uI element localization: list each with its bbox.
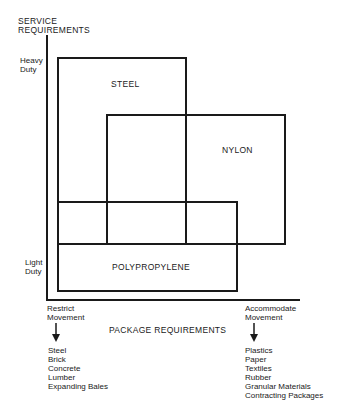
restrict-line2: Movement [47, 313, 84, 322]
polypropylene-region [57, 201, 238, 292]
down-arrow-icon-right [250, 323, 260, 343]
list-item: Lumber [48, 373, 108, 382]
list-item: Concrete [48, 364, 108, 373]
accommodate-line2: Movement [245, 313, 296, 322]
nylon-label: NYLON [222, 146, 253, 155]
restrict-line1: Restrict [47, 304, 84, 313]
list-item: Granular Materials [245, 382, 323, 391]
heavy-duty-label: Heavy Duty [20, 56, 43, 74]
y-axis-line [46, 35, 48, 301]
heavy-duty-line2: Duty [20, 65, 43, 74]
steel-label: STEEL [111, 80, 139, 89]
accommodate-line1: Accommodate [245, 304, 296, 313]
light-duty-line1: Light [25, 258, 42, 267]
light-duty-line2: Duty [25, 267, 42, 276]
restrict-materials-list: Steel Brick Concrete Lumber Expanding Ba… [48, 346, 108, 391]
x-axis-title: PACKAGE REQUIREMENTS [109, 326, 226, 335]
list-item: Brick [48, 355, 108, 364]
polypropylene-label: POLYPROPYLENE [112, 263, 190, 272]
light-duty-label: Light Duty [25, 258, 42, 276]
y-axis-title: SERVICE REQUIREMENTS [18, 17, 90, 35]
list-item: Paper [245, 355, 323, 364]
list-item: Textiles [245, 364, 323, 373]
accommodate-materials-list: Plastics Paper Textiles Rubber Granular … [245, 346, 323, 400]
list-item: Rubber [245, 373, 323, 382]
accommodate-movement-label: Accommodate Movement [245, 304, 296, 322]
x-axis-line [46, 299, 300, 301]
y-axis-title-line2: REQUIREMENTS [18, 26, 90, 35]
heavy-duty-line1: Heavy [20, 56, 43, 65]
list-item: Expanding Bales [48, 382, 108, 391]
restrict-movement-label: Restrict Movement [47, 304, 84, 322]
down-arrow-icon-left [52, 323, 62, 343]
list-item: Steel [48, 346, 108, 355]
list-item: Contracting Packages [245, 391, 323, 400]
list-item: Plastics [245, 346, 323, 355]
